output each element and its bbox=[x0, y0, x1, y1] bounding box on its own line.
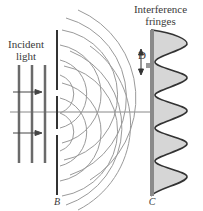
spacing-label: D bbox=[137, 49, 147, 61]
screen-label: C bbox=[146, 196, 158, 208]
screen-c bbox=[150, 30, 154, 196]
interference-fringes-label: Interference fringes bbox=[118, 3, 203, 27]
double-slit-diagram: Incident light Interference fringes B C … bbox=[0, 0, 203, 211]
incident-wavefronts bbox=[19, 65, 45, 163]
fringe-spacing-marker bbox=[146, 63, 150, 68]
diagram-graphics bbox=[0, 0, 203, 211]
fringes-label-line1: Interference bbox=[118, 3, 203, 15]
fringes-label-line2: fringes bbox=[118, 15, 203, 27]
barrier-label: B bbox=[51, 196, 63, 208]
incident-label-line1: Incident bbox=[2, 38, 50, 50]
incident-light-label: Incident light bbox=[2, 38, 50, 62]
fringe-intensity-curve bbox=[152, 30, 187, 195]
incident-label-line2: light bbox=[2, 50, 50, 62]
circular-wavefronts bbox=[60, 10, 136, 210]
